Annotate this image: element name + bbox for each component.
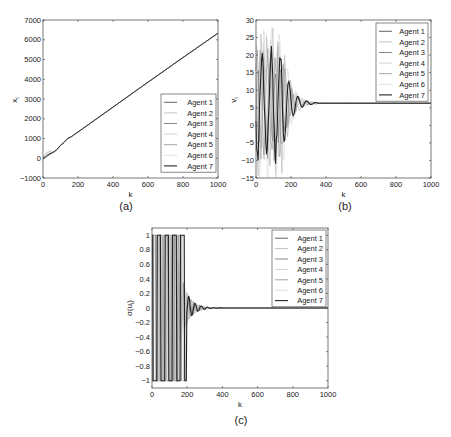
- x-axis-label: k: [238, 400, 243, 409]
- legend-entry: Agent 7: [297, 296, 323, 305]
- x-tick-label: 1000: [210, 180, 227, 189]
- y-axis-label: σ(ui): [125, 300, 135, 316]
- x-tick-label: 0: [150, 390, 154, 399]
- x-tick-label: 800: [287, 390, 300, 399]
- x-tick-label: 800: [177, 180, 190, 189]
- y-tick-label: 5: [250, 103, 254, 112]
- y-tick-label: 15: [246, 68, 254, 77]
- x-tick-label: 800: [390, 180, 403, 189]
- y-axis-label: xi: [10, 97, 20, 102]
- y-tick-label: 30: [246, 16, 254, 25]
- y-tick-label: 1000: [24, 134, 41, 143]
- x-tick-label: 400: [107, 180, 120, 189]
- y-tick-label: 5000: [24, 55, 41, 64]
- y-tick-label: −0.6: [135, 347, 150, 356]
- x-tick-label: 0: [41, 180, 45, 189]
- y-tick-label: −0.4: [135, 333, 150, 342]
- caption-b: (b): [338, 200, 351, 212]
- legend-entry: Agent 3: [297, 255, 323, 264]
- y-tick-label: −10: [241, 156, 254, 165]
- x-tick-label: 600: [251, 390, 264, 399]
- caption-c: (c): [235, 414, 248, 426]
- figure: 02004006008001000−1000010002000300040005…: [0, 0, 451, 437]
- y-tick-label: 20: [246, 51, 254, 60]
- chart-panel-b: 02004006008001000−15−10−5051015202530kvi…: [229, 16, 439, 199]
- y-tick-label: 2000: [24, 114, 41, 123]
- y-tick-label: 0.6: [140, 260, 150, 269]
- legend-entry: Agent 5: [187, 140, 213, 149]
- chart-panel-c: 02004006008001000−1−0.8−0.6−0.4−0.200.20…: [125, 228, 336, 409]
- y-tick-label: 1: [146, 231, 150, 240]
- legend-entry: Agent 4: [187, 130, 213, 139]
- legend-entry: Agent 2: [399, 38, 425, 47]
- y-tick-label: 25: [246, 33, 254, 42]
- x-tick-label: 200: [72, 180, 85, 189]
- x-tick-label: 600: [355, 180, 368, 189]
- y-tick-label: −1: [141, 376, 150, 385]
- y-tick-label: 0: [250, 121, 254, 130]
- legend-entry: Agent 1: [187, 98, 213, 107]
- legend-entry: Agent 3: [399, 48, 425, 57]
- x-tick-label: 400: [320, 180, 333, 189]
- legend-entry: Agent 4: [399, 59, 425, 68]
- y-tick-label: 0: [146, 304, 150, 313]
- y-tick-label: 0: [37, 154, 41, 163]
- y-tick-label: 0.2: [140, 289, 150, 298]
- x-axis-label: k: [129, 190, 134, 199]
- legend-entry: Agent 4: [297, 265, 323, 274]
- y-tick-label: 4000: [24, 75, 41, 84]
- x-tick-label: 0: [254, 180, 258, 189]
- legend-entry: Agent 1: [297, 234, 323, 243]
- y-tick-label: 0.8: [140, 245, 150, 254]
- y-tick-label: 10: [246, 86, 254, 95]
- chart-panel-a: 02004006008001000−1000010002000300040005…: [10, 16, 226, 199]
- y-tick-label: −1000: [20, 174, 41, 183]
- y-tick-label: −0.8: [135, 362, 150, 371]
- x-tick-label: 600: [142, 180, 155, 189]
- legend-entry: Agent 5: [399, 69, 425, 78]
- y-tick-label: 6000: [24, 35, 41, 44]
- x-tick-label: 1000: [423, 180, 440, 189]
- legend-entry: Agent 6: [187, 151, 213, 160]
- x-tick-label: 400: [216, 390, 229, 399]
- legend-entry: Agent 7: [187, 162, 213, 171]
- y-tick-label: −5: [245, 138, 254, 147]
- y-tick-label: 7000: [24, 16, 41, 25]
- legend-entry: Agent 3: [187, 119, 213, 128]
- legend-entry: Agent 5: [297, 276, 323, 285]
- x-tick-label: 1000: [320, 390, 337, 399]
- legend-entry: Agent 6: [399, 80, 425, 89]
- y-tick-label: −15: [241, 174, 254, 183]
- y-axis-label: vi: [229, 97, 239, 102]
- x-tick-label: 200: [181, 390, 194, 399]
- legend-entry: Agent 1: [399, 27, 425, 36]
- legend-entry: Agent 2: [187, 109, 213, 118]
- legend-entry: Agent 7: [399, 91, 425, 100]
- y-tick-label: 3000: [24, 95, 41, 104]
- caption-a: (a): [119, 200, 132, 212]
- legend-entry: Agent 6: [297, 286, 323, 295]
- x-tick-label: 200: [285, 180, 298, 189]
- legend-entry: Agent 2: [297, 244, 323, 253]
- y-tick-label: 0.4: [140, 275, 150, 284]
- x-axis-label: k: [342, 190, 347, 199]
- y-tick-label: −0.2: [135, 318, 150, 327]
